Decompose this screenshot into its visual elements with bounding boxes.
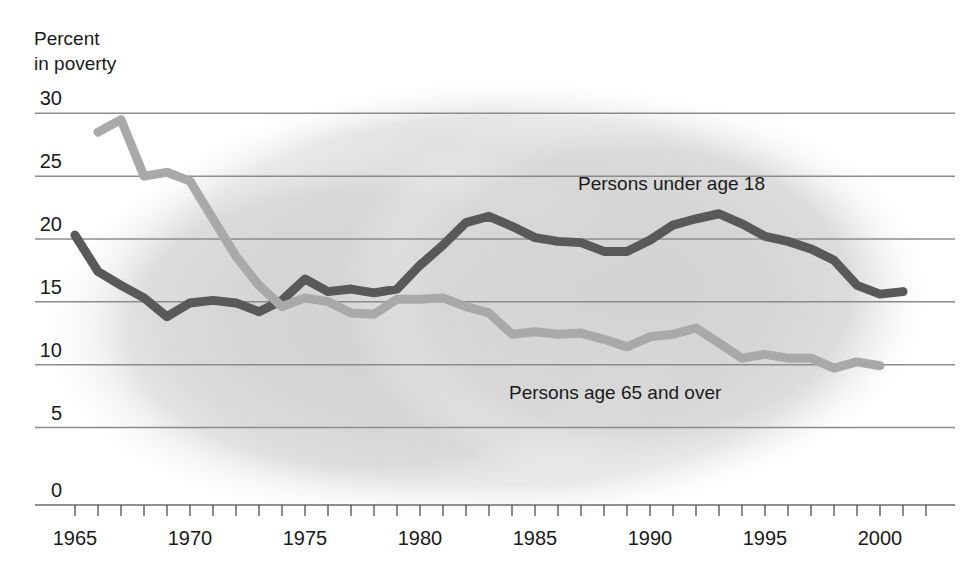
x-tick-label-1980: 1980 (398, 527, 443, 549)
y-tick-labels: 30 25 20 15 10 5 0 (40, 87, 62, 501)
background-blob (30, 75, 940, 525)
x-tick-label-1975: 1975 (283, 527, 328, 549)
poverty-rate-line-chart: Percent in poverty 30 25 20 15 10 5 0 (0, 0, 964, 572)
x-tick-label-1965: 1965 (53, 527, 98, 549)
y-tick-label-25: 25 (40, 150, 62, 172)
y-tick-label-20: 20 (40, 213, 62, 235)
chart-page: Percent in poverty 30 25 20 15 10 5 0 (0, 0, 964, 572)
annotation-persons-age-65-and-over: Persons age 65 and over (509, 382, 722, 403)
y-axis-title-line1: Percent (34, 28, 100, 49)
y-tick-label-10: 10 (40, 339, 62, 361)
y-tick-label-0: 0 (51, 479, 62, 501)
x-tick-label-2000: 2000 (858, 527, 903, 549)
x-tick-labels: 1965 1970 1975 1980 1985 1990 1995 2000 (53, 527, 903, 549)
annotation-persons-under-age-18: Persons under age 18 (578, 173, 765, 194)
y-tick-label-30: 30 (40, 87, 62, 109)
y-axis-title-line2: in poverty (34, 53, 117, 74)
y-tick-label-15: 15 (40, 276, 62, 298)
x-tick-label-1970: 1970 (168, 527, 213, 549)
y-axis-title: Percent in poverty (34, 28, 117, 74)
x-tick-label-1985: 1985 (513, 527, 558, 549)
x-tick-label-1995: 1995 (743, 527, 788, 549)
y-tick-label-5: 5 (51, 402, 62, 424)
x-tick-label-1990: 1990 (628, 527, 673, 549)
